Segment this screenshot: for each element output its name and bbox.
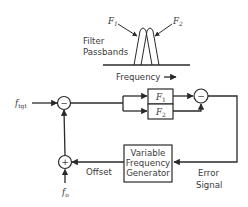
- difference-node-right-sign: −: [197, 91, 204, 101]
- input-ftgt-label: ftgt: [14, 98, 27, 110]
- passband-plot: F1 F2 Filter Passbands Frequency: [83, 16, 190, 82]
- vfg-label-line2: Frequency: [126, 158, 170, 168]
- summing-node-sign: +: [61, 157, 68, 167]
- offset-input-fo-label: fo: [61, 187, 69, 198]
- filter1-leader: [118, 24, 137, 36]
- offset-label: Offset: [86, 167, 112, 177]
- filter2-passband-curve: [141, 28, 159, 65]
- error-signal-label-line1: Error: [198, 168, 219, 178]
- error-signal-path: [174, 96, 237, 162]
- vfg-label-line3: Generator: [126, 168, 170, 178]
- difference-node-left-sign: −: [60, 98, 67, 108]
- filter2-leader: [155, 24, 172, 36]
- filter2-passband-label: F2: [172, 16, 183, 27]
- filter1-passband-curve: [134, 28, 152, 65]
- f2-output-line: [173, 104, 201, 111]
- feedback-line: [64, 110, 65, 156]
- block-diagram: ftgt − F1 F2 − Error Signal Variable: [14, 89, 237, 198]
- vfg-label-line1: Variable: [131, 148, 166, 158]
- error-signal-label-line2: Signal: [196, 180, 222, 190]
- frequency-axis-label: Frequency: [116, 72, 160, 82]
- feedback-filter-diagram: F1 F2 Filter Passbands Frequency ftgt − …: [0, 0, 248, 207]
- filter-caption-line1: Filter: [83, 36, 105, 46]
- filter-caption-line2: Passbands: [83, 47, 129, 57]
- filter1-passband-label: F1: [107, 16, 118, 27]
